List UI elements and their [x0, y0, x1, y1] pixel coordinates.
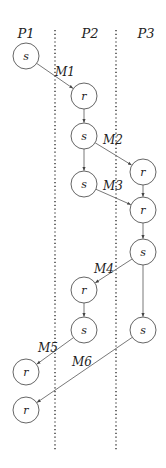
send-event-node: s [130, 239, 156, 265]
receive-event-node: r [130, 197, 156, 223]
message-label-m5: M5 [37, 341, 58, 355]
node-label: s [81, 130, 87, 143]
send-event-node: s [71, 123, 97, 149]
node-label: r [23, 404, 29, 417]
message-label-m3: M3 [102, 179, 123, 193]
message-label-m2: M2 [102, 133, 123, 147]
process-label-p1: P1 [16, 26, 34, 41]
process-label-p2: P2 [80, 26, 98, 41]
send-event-node: s [130, 317, 156, 343]
node-label: r [140, 166, 146, 179]
node-label: s [140, 246, 146, 259]
receive-event-node: r [130, 159, 156, 185]
message-label-m4: M4 [93, 262, 114, 276]
node-label: s [81, 324, 87, 337]
process-label-p3: P3 [136, 26, 154, 41]
receive-event-node: r [71, 277, 97, 303]
node-label: r [81, 90, 87, 103]
message-sequence-diagram: P1P2P3 M1M2M3M4M5M6 srssrrsrssrr [0, 0, 166, 468]
message-label-m1: M1 [54, 65, 75, 79]
process-labels: P1P2P3 [16, 26, 154, 41]
receive-event-node: r [71, 83, 97, 109]
node-label: s [81, 178, 87, 191]
node-label: r [23, 366, 29, 379]
send-event-node: s [71, 317, 97, 343]
send-event-node: s [13, 43, 39, 69]
node-label: r [140, 204, 146, 217]
message-label-m6: M6 [71, 355, 92, 369]
node-label: r [81, 284, 87, 297]
send-event-node: s [71, 171, 97, 197]
node-label: s [23, 50, 29, 63]
receive-event-node: r [13, 359, 39, 385]
receive-event-node: r [13, 397, 39, 423]
node-label: s [140, 324, 146, 337]
